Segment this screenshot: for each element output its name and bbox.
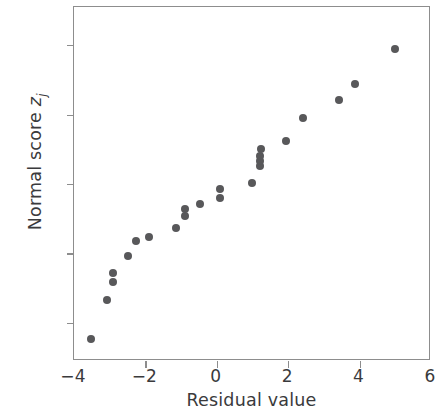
data-point [132,237,140,245]
x-axis-tick-label: 6 [424,366,435,386]
plot-area [74,7,429,359]
y-axis-tick [67,184,74,185]
y-axis-tick [67,45,74,46]
data-point [145,233,153,241]
data-point [124,252,132,260]
x-axis-title: Residual value [73,390,430,410]
x-axis-tick-label: −2 [132,366,157,386]
data-point [335,96,343,104]
data-point [196,200,204,208]
y-axis-tick [67,115,74,116]
x-axis-tick-label: 0 [210,366,221,386]
y-axis-tick [67,323,74,324]
x-axis-tick-label: −4 [60,366,85,386]
data-point [181,212,189,220]
data-point [109,278,117,286]
data-point [351,80,359,88]
plot-frame [73,6,430,360]
y-axis-symbol-z: z [25,97,45,106]
data-point [103,296,111,304]
data-point [216,185,224,193]
data-point [299,114,307,122]
y-axis-title-symbol: zj [25,93,45,106]
data-point [109,269,117,277]
y-axis-tick [67,253,74,254]
data-point [257,145,265,153]
data-point [181,205,189,213]
data-point [172,224,180,232]
data-point [282,137,290,145]
data-point [248,179,256,187]
data-point [216,194,224,202]
data-point [391,45,399,53]
x-axis-tick-label: 4 [353,366,364,386]
data-point [87,335,95,343]
y-axis-title: Normal score zj [25,22,49,302]
chart-page: −4−20246−2−1012 Residual value Normal sc… [0,0,438,417]
y-axis-title-text: Normal score [25,106,45,230]
x-axis-tick-label: 2 [282,366,293,386]
y-axis-symbol-subscript: j [35,93,49,97]
